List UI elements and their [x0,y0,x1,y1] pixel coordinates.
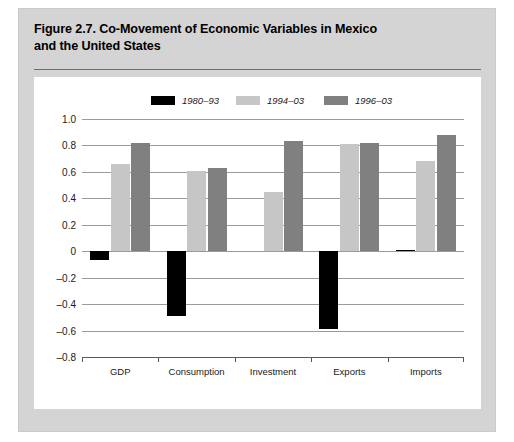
y-axis-tick-label: –0.8 [57,352,76,363]
figure-title-line-2: and the United States [34,38,474,55]
chart-plot-panel: 1980–931994–031996–03 1.00.80.60.40.20–0… [34,77,481,409]
y-axis-tick-label: 0.4 [62,193,76,204]
y-axis-tick-label: 0.8 [62,140,76,151]
legend-item-1994-03: 1994–03 [236,91,304,105]
x-axis-tick [311,357,312,362]
legend-swatch-icon [151,96,175,105]
figure-panel: Figure 2.7. Co-Movement of Economic Vari… [18,8,496,432]
x-axis-category-label-imports: Imports [410,366,442,377]
bar-gdp-1980-93 [90,251,109,260]
x-axis-tick [388,357,389,362]
y-axis-tick-label: –0.2 [57,272,76,283]
bar-exports-1996-03 [360,143,379,251]
legend-label: 1996–03 [355,95,392,106]
gridline [82,119,464,120]
gridline [82,278,464,279]
chart-legend: 1980–931994–031996–03 [34,91,481,105]
bar-exports-1994-03 [340,144,359,251]
x-axis-tick [82,357,83,362]
y-axis-tick-label: 0 [70,246,76,257]
figure-title-line-1: Figure 2.7. Co-Movement of Economic Vari… [34,21,474,38]
x-axis-category-label-consumption: Consumption [169,366,225,377]
x-axis-tick [235,357,236,362]
bar-imports-1980-93 [396,250,415,252]
y-axis-tick-label: –0.6 [57,325,76,336]
x-axis-category-label-investment: Investment [250,366,296,377]
bar-exports-1980-93 [319,251,338,329]
legend-item-1996-03: 1996–03 [324,91,392,105]
x-axis-tick [158,357,159,362]
figure-title: Figure 2.7. Co-Movement of Economic Vari… [34,21,474,55]
bar-consumption-1994-03 [187,171,206,252]
gridline [82,331,464,332]
legend-swatch-icon [236,96,260,105]
bar-investment-1994-03 [264,192,283,252]
x-axis-category-label-gdp: GDP [110,366,131,377]
legend-item-1980-93: 1980–93 [151,91,219,105]
x-axis: GDPConsumptionInvestmentExportsImports [82,357,464,358]
bar-gdp-1996-03 [131,143,150,251]
chart-plot-area: 1.00.80.60.40.20–0.2–0.4–0.6–0.8 [82,119,464,357]
bar-consumption-1980-93 [167,251,186,316]
legend-label: 1994–03 [267,95,304,106]
x-axis-tick [463,357,464,362]
y-axis-tick-label: 0.6 [62,166,76,177]
y-axis-tick-label: –0.4 [57,299,76,310]
bar-imports-1996-03 [437,135,456,251]
x-axis-category-label-exports: Exports [333,366,365,377]
y-axis-tick-label: 1.0 [62,114,76,125]
bar-consumption-1996-03 [208,168,227,251]
y-axis-tick-label: 0.2 [62,219,76,230]
bar-investment-1996-03 [284,141,303,251]
gridline [82,304,464,305]
legend-swatch-icon [324,96,348,105]
title-divider [34,69,481,70]
bar-gdp-1994-03 [111,164,130,251]
legend-label: 1980–93 [182,95,219,106]
bar-imports-1994-03 [416,161,435,251]
